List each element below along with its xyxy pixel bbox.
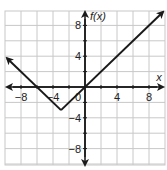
function-graph: −8−404884−4−8 x f(x) [0, 0, 167, 170]
x-tick-label: −8 [15, 91, 28, 103]
x-tick-label: 4 [114, 91, 120, 103]
y-tick-label: −8 [68, 143, 81, 155]
x-tick-label: 8 [146, 91, 152, 103]
y-tick-label: −4 [68, 112, 81, 124]
y-tick-label: 4 [75, 50, 81, 62]
y-axis-label: f(x) [90, 10, 106, 22]
y-tick-label: 8 [75, 19, 81, 31]
x-axis-label: x [155, 71, 162, 83]
